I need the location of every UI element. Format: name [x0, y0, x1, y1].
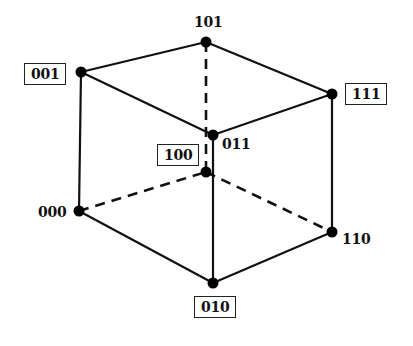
- label-100: 100: [157, 144, 199, 166]
- label-001: 001: [24, 63, 66, 85]
- vertex-011: [208, 130, 219, 141]
- cube-edges-and-vertices: [0, 0, 413, 346]
- edge-001-011: [81, 72, 213, 135]
- vertex-010: [208, 278, 219, 289]
- label-110: 110: [342, 232, 370, 246]
- vertex-101: [201, 37, 212, 48]
- vertex-100: [201, 167, 212, 178]
- edge-011-111: [213, 94, 332, 135]
- edge-101-111: [206, 42, 332, 94]
- edge-001-101: [81, 42, 206, 72]
- edge-001-000: [79, 72, 81, 211]
- vertex-110: [327, 227, 338, 238]
- vertex-001: [76, 67, 87, 78]
- label-000: 000: [38, 205, 66, 219]
- edge-000-100: [79, 172, 206, 211]
- label-011: 011: [222, 137, 250, 151]
- label-111: 111: [345, 83, 387, 105]
- edge-000-010: [79, 211, 213, 283]
- edge-010-110: [213, 232, 332, 283]
- vertex-000: [74, 206, 85, 217]
- edge-100-110: [206, 172, 332, 232]
- cube-diagram: 101 001 111 011 100 000 110 010: [0, 0, 413, 346]
- label-101: 101: [194, 15, 222, 29]
- vertex-111: [327, 89, 338, 100]
- label-010: 010: [194, 296, 236, 318]
